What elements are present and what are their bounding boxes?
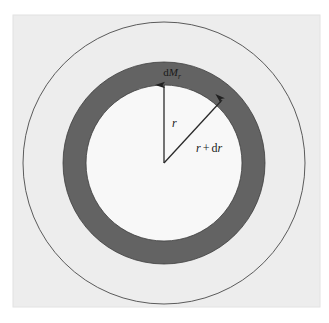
figure-root: dMr r r+dr [0,0,329,323]
r-plus-dr-label-operator: + [203,141,210,155]
r-plus-dr-label-r2: r [217,141,222,155]
r-plus-dr-label-r1: r [196,141,201,155]
radius-r-plus-dr-label: r+dr [196,141,222,155]
shell-mass-diagram: dMr r r+dr [0,0,329,323]
radius-r-label: r [172,116,177,130]
shell-mass-label-subscript: r [178,72,181,81]
